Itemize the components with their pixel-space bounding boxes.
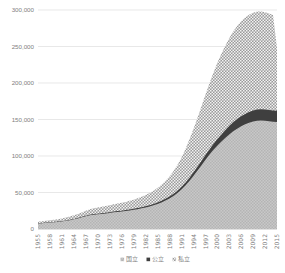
legend-label-3: 私立 bbox=[178, 255, 190, 263]
y-axis-tick-label: 150,000 bbox=[12, 116, 35, 123]
y-axis-tick-label: 300,000 bbox=[12, 6, 35, 13]
x-axis-tick-label: 1982 bbox=[142, 234, 149, 249]
x-axis-tick-label: 1985 bbox=[154, 234, 161, 249]
legend-marker-2 bbox=[147, 258, 151, 262]
x-axis-tick-label: 2009 bbox=[249, 234, 256, 249]
x-axis-tick-label: 1976 bbox=[118, 234, 125, 249]
x-axis-tick-label: 1979 bbox=[130, 234, 137, 249]
legend-marker-1 bbox=[121, 258, 125, 262]
x-axis-tick-label: 1967 bbox=[82, 234, 89, 249]
x-axis-tick-label: 2003 bbox=[225, 234, 232, 249]
x-axis-tick-label: 1973 bbox=[106, 234, 113, 249]
x-axis-tick-label: 2012 bbox=[261, 234, 268, 249]
x-axis-tick-label: 2015 bbox=[273, 234, 280, 249]
y-axis-tick-label: 0 bbox=[31, 225, 35, 232]
legend-marker-3 bbox=[173, 258, 177, 262]
stacked-area-chart: 050,000100,000150,000200,000250,000300,0… bbox=[0, 0, 285, 273]
y-axis-tick-label: 200,000 bbox=[12, 79, 35, 86]
chart-canvas: 050,000100,000150,000200,000250,000300,0… bbox=[0, 0, 285, 273]
x-axis-tick-label: 1994 bbox=[190, 234, 197, 249]
x-axis-labels-group: 1955195819611964196719701973197619791982… bbox=[34, 234, 280, 249]
x-axis-tick-label: 1997 bbox=[202, 234, 209, 249]
x-axis-tick-label: 1958 bbox=[46, 234, 53, 249]
x-axis-tick-label: 1961 bbox=[58, 234, 65, 249]
chart-legend: 国立公立私立 bbox=[121, 255, 190, 263]
legend-label-1: 国立 bbox=[126, 255, 138, 263]
x-axis-tick-label: 1991 bbox=[178, 234, 185, 249]
y-axis-tick-label: 250,000 bbox=[12, 43, 35, 50]
y-axis-tick-label: 50,000 bbox=[15, 189, 34, 196]
x-axis-tick-label: 1970 bbox=[94, 234, 101, 249]
x-axis-tick-label: 2006 bbox=[237, 234, 244, 249]
x-axis-tick-label: 2000 bbox=[213, 234, 220, 249]
x-axis-tick-label: 1964 bbox=[70, 234, 77, 249]
y-axis-tick-label: 100,000 bbox=[12, 152, 35, 159]
x-axis-tick-label: 1988 bbox=[166, 234, 173, 249]
legend-label-2: 公立 bbox=[152, 255, 164, 262]
x-axis-tick-label: 1955 bbox=[34, 234, 41, 249]
